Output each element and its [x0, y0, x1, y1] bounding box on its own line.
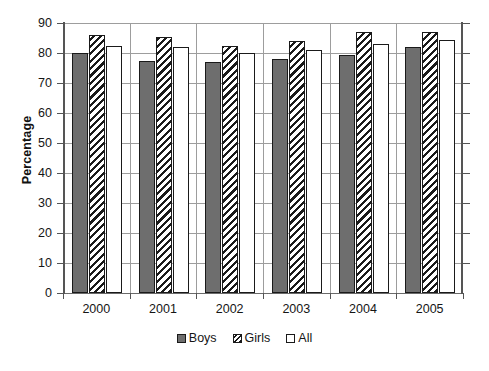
y-axis-tick-right	[463, 143, 470, 144]
bar-boys-2000	[72, 53, 88, 293]
y-axis-tick-right	[463, 23, 470, 24]
y-axis-tick-label: 30	[18, 197, 52, 210]
y-axis-tick-right	[463, 113, 470, 114]
legend-swatch-boys-icon	[177, 334, 186, 343]
bar-girls-2003	[289, 41, 305, 293]
y-axis-tick-right	[463, 203, 470, 204]
x-axis-tick-label: 2000	[61, 302, 131, 316]
y-axis-tick-label: 40	[18, 167, 52, 180]
x-axis-tick	[63, 293, 64, 299]
bar-all-2004	[373, 44, 389, 293]
y-axis-tick-right	[463, 233, 470, 234]
x-axis-tick	[330, 293, 331, 299]
y-axis-tick	[57, 263, 63, 264]
legend-item-girls[interactable]: Girls	[233, 332, 271, 345]
y-axis-tick	[57, 113, 63, 114]
y-axis-tick	[57, 143, 63, 144]
bar-boys-2005	[405, 47, 421, 293]
bar-boys-2003	[272, 59, 288, 293]
y-axis-tick-label: 50	[18, 137, 52, 150]
y-axis-tick-label: 80	[18, 47, 52, 60]
y-axis-tick	[57, 83, 63, 84]
bar-boys-2002	[205, 62, 221, 293]
x-axis-tick	[463, 293, 464, 299]
legend-label: Boys	[189, 332, 217, 345]
bar-group-2002	[196, 23, 263, 293]
y-axis-title: Percentage	[14, 0, 40, 300]
bar-girls-2004	[356, 32, 372, 293]
bar-girls-2000	[89, 35, 105, 293]
legend-item-all[interactable]: All	[286, 332, 312, 345]
bar-group-2000	[63, 23, 130, 293]
bar-girls-2001	[156, 37, 172, 294]
x-axis-tick-label: 2005	[395, 302, 465, 316]
bar-chart: Percentage BoysGirlsAll 9080706050403020…	[0, 0, 489, 371]
bar-group-2003	[263, 23, 330, 293]
legend-label: Girls	[245, 332, 271, 345]
y-axis-tick-right	[463, 263, 470, 264]
bar-boys-2004	[339, 55, 355, 294]
plot-area	[63, 23, 463, 293]
y-axis-tick	[57, 233, 63, 234]
legend-label: All	[298, 332, 312, 345]
y-axis-tick	[57, 23, 63, 24]
y-axis-tick-label: 10	[18, 257, 52, 270]
y-axis-tick	[57, 203, 63, 204]
bar-all-2000	[106, 46, 122, 294]
y-axis-tick-right	[463, 83, 470, 84]
bar-group-2005	[396, 23, 463, 293]
x-axis-tick-label: 2004	[328, 302, 398, 316]
bar-all-2002	[239, 53, 255, 293]
x-axis-tick	[263, 293, 264, 299]
bar-group-2001	[130, 23, 197, 293]
bar-boys-2001	[139, 61, 155, 294]
x-axis-tick	[396, 293, 397, 299]
bar-girls-2005	[422, 32, 438, 293]
y-axis-spine-right	[461, 22, 463, 294]
y-axis-tick	[57, 53, 63, 54]
y-axis-tick-label: 0	[18, 287, 52, 300]
y-axis-tick-label: 20	[18, 227, 52, 240]
x-axis-tick-label: 2001	[128, 302, 198, 316]
bar-all-2003	[306, 50, 322, 293]
bar-group-2004	[330, 23, 397, 293]
y-axis-spine-left	[63, 22, 65, 294]
y-axis-tick-right	[463, 53, 470, 54]
y-axis-tick	[57, 173, 63, 174]
y-axis-tick-label: 70	[18, 77, 52, 90]
x-axis-tick-label: 2002	[195, 302, 265, 316]
bar-all-2001	[173, 47, 189, 293]
chart-legend: BoysGirlsAll	[0, 332, 489, 345]
x-axis-tick-label: 2003	[261, 302, 331, 316]
x-axis-tick	[196, 293, 197, 299]
legend-swatch-all-icon	[286, 334, 295, 343]
y-axis-tick-right	[463, 173, 470, 174]
legend-swatch-girls-icon	[233, 334, 242, 343]
bar-girls-2002	[222, 46, 238, 294]
legend-item-boys[interactable]: Boys	[177, 332, 217, 345]
y-axis-tick-label: 90	[18, 17, 52, 30]
x-axis-tick	[130, 293, 131, 299]
bar-all-2005	[439, 40, 455, 294]
y-axis-tick-label: 60	[18, 107, 52, 120]
